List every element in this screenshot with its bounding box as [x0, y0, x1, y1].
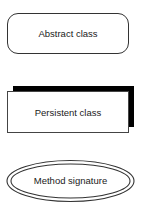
abstract-class-label: Abstract class [38, 28, 97, 39]
method-signature-shape: Method signature [7, 160, 134, 201]
persistent-class-label: Persistent class [35, 107, 102, 118]
abstract-class-shape: Abstract class [7, 13, 129, 54]
persistent-class-shape: Persistent class [7, 91, 129, 133]
method-signature-label: Method signature [34, 175, 107, 186]
notation-legend: Abstract class Persistent class Method s… [0, 0, 145, 207]
